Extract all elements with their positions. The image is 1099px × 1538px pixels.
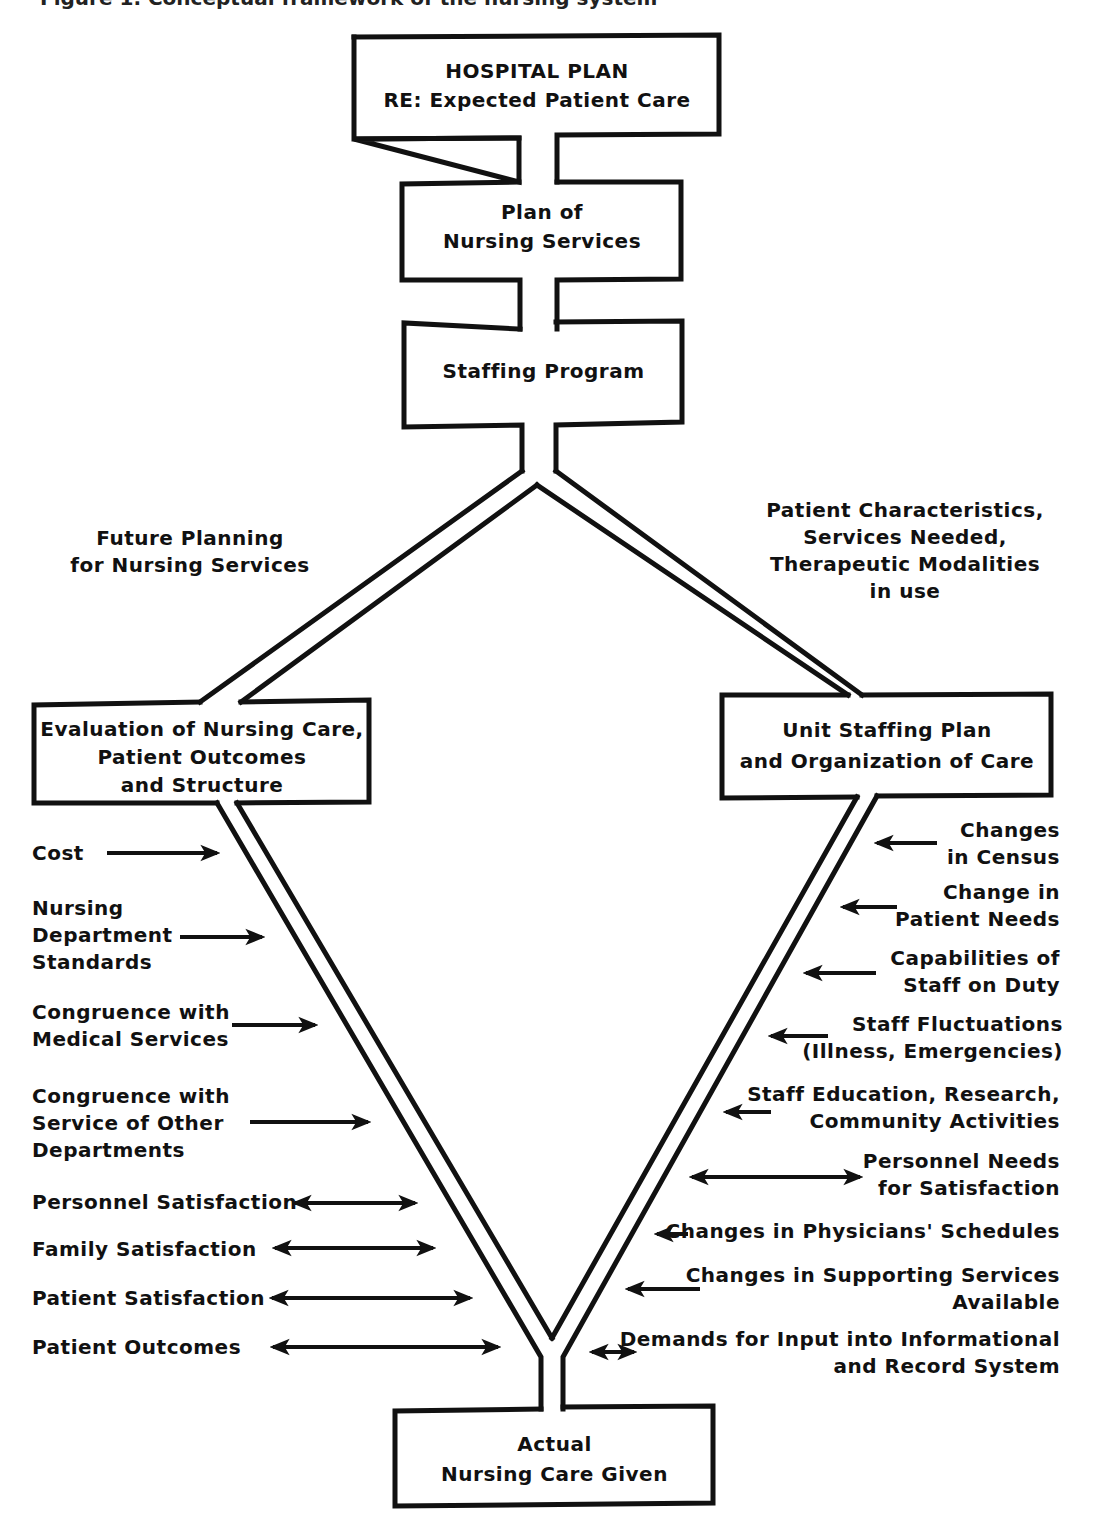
box-unit-staffing: Unit Staffing Plan and Organization of C…	[724, 715, 1050, 777]
box-evaluation-line1: Evaluation of Nursing Care,	[36, 715, 368, 743]
left-factor-cost: Cost	[32, 840, 84, 867]
box-evaluation-line2: Patient Outcomes	[36, 743, 368, 771]
box-actual-care-line2: Nursing Care Given	[397, 1459, 712, 1489]
right-factor-capabilities-staff: Capabilities of Staff on Duty	[890, 945, 1060, 999]
box-staffing-program: Staffing Program	[406, 357, 681, 386]
box-unit-staffing-line2: and Organization of Care	[724, 746, 1050, 777]
channel-left-lower	[217, 803, 552, 1409]
right-factor-personnel-needs: Personnel Needs for Satisfaction	[863, 1148, 1060, 1202]
box-plan-nursing: Plan of Nursing Services	[404, 198, 680, 256]
box-hospital-plan-line2: RE: Expected Patient Care	[356, 86, 718, 115]
right-factor-physicians-schedules: Changes in Physicians' Schedules	[665, 1218, 1060, 1245]
box-actual-care-line1: Actual	[397, 1429, 712, 1459]
channel-left-upper	[200, 471, 537, 702]
box-unit-staffing-line1: Unit Staffing Plan	[724, 715, 1050, 746]
box-plan-nursing-line2: Nursing Services	[404, 227, 680, 256]
box-evaluation: Evaluation of Nursing Care, Patient Outc…	[36, 715, 368, 799]
box-hospital-plan-line1: HOSPITAL PLAN	[356, 57, 718, 86]
branch-label-right: Patient Characteristics, Services Needed…	[750, 497, 1060, 605]
branch-label-left: Future Planning for Nursing Services	[70, 525, 310, 579]
left-factor-patient-satisfaction: Patient Satisfaction	[32, 1285, 265, 1312]
right-factor-staff-fluctuations: Staff Fluctuations (Illness, Emergencies…	[802, 1011, 1063, 1065]
box-hospital-plan: HOSPITAL PLAN RE: Expected Patient Care	[356, 57, 718, 115]
figure-caption-partial: Figure 1. Conceptual framework of the nu…	[40, 0, 657, 10]
right-factor-changes-census: Changes in Census	[947, 817, 1060, 871]
left-factor-patient-outcomes: Patient Outcomes	[32, 1334, 241, 1361]
box-staffing-program-line1: Staffing Program	[406, 357, 681, 386]
right-factor-change-patient-needs: Change in Patient Needs	[895, 879, 1060, 933]
box-actual-care: Actual Nursing Care Given	[397, 1429, 712, 1489]
box-staffing-program-outline	[404, 321, 682, 471]
left-factor-congruence-medical: Congruence with Medical Services	[32, 999, 230, 1053]
box-plan-nursing-line1: Plan of	[404, 198, 680, 227]
right-factor-supporting-services: Changes in Supporting Services Available	[686, 1262, 1060, 1316]
left-factor-congruence-other: Congruence with Service of Other Departm…	[32, 1083, 230, 1164]
left-factor-nursing-standards: Nursing Department Standards	[32, 895, 173, 976]
box-evaluation-line3: and Structure	[36, 771, 368, 799]
right-factor-staff-education: Staff Education, Research, Community Act…	[747, 1081, 1060, 1135]
right-factor-demands-input: Demands for Input into Informational and…	[620, 1326, 1060, 1380]
left-factor-personnel-satisfaction: Personnel Satisfaction	[32, 1189, 297, 1216]
left-factor-family-satisfaction: Family Satisfaction	[32, 1236, 257, 1263]
